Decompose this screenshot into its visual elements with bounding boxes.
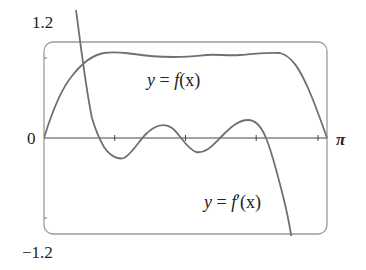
y-min-label: −1.2 <box>22 243 53 262</box>
fp-label-y: y <box>202 192 212 212</box>
fp-label-eq: = <box>212 192 231 212</box>
chart: 1.2 −1.2 0 π y = f(x) y = f′(x) <box>0 0 366 270</box>
f-prime-curve-label: y = f′(x) <box>202 192 261 213</box>
f-curve <box>44 52 327 138</box>
f-curve-label: y = f(x) <box>145 70 200 91</box>
f-label-y: y <box>145 70 155 90</box>
x-max-label: π <box>336 130 346 149</box>
fp-label-arg: (x) <box>240 192 261 213</box>
origin-label: 0 <box>27 129 36 148</box>
f-label-eq: = <box>155 70 174 90</box>
f-label-arg: (x) <box>179 70 200 91</box>
y-max-label: 1.2 <box>32 13 53 32</box>
